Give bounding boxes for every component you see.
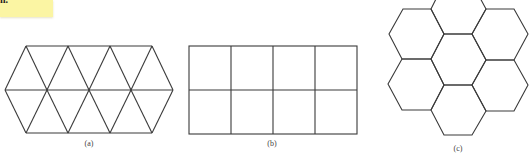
figure-c-hexagons — [388, 0, 528, 135]
caption-a: (a) — [85, 139, 94, 149]
tiling-figures — [0, 0, 532, 154]
caption-b: (b) — [267, 139, 276, 149]
figure-a-triangles — [5, 46, 173, 133]
caption-c: (c) — [454, 144, 463, 154]
figure-b-squares — [189, 46, 357, 134]
